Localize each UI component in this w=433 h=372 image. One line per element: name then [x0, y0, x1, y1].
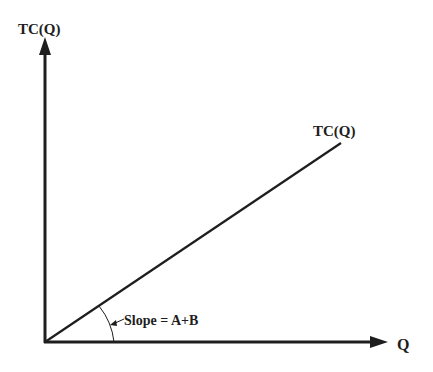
- x-axis-label: Q: [397, 336, 409, 353]
- slope-pointer-arrowhead: [110, 320, 117, 326]
- slope-annotation: Slope = A+B: [124, 313, 198, 328]
- cost-diagram: TC(Q) TC(Q) Q Slope = A+B: [0, 0, 433, 372]
- tc-line-label: TC(Q): [313, 123, 356, 140]
- y-axis-arrowhead: [39, 37, 51, 55]
- y-axis-label: TC(Q): [18, 21, 61, 38]
- x-axis-arrowhead: [370, 336, 388, 348]
